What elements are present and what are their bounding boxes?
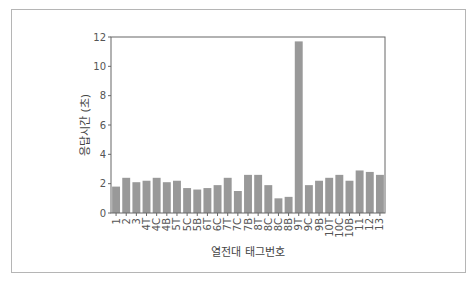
x-tick-label: 13 — [374, 218, 385, 231]
bar — [325, 178, 333, 213]
bar — [305, 185, 313, 213]
bar — [132, 182, 140, 213]
bar — [173, 181, 181, 213]
bar — [285, 197, 293, 213]
bar — [203, 188, 211, 213]
y-tick-label: 10 — [93, 61, 106, 72]
bar — [264, 185, 272, 213]
bar — [335, 175, 343, 213]
x-axis-label: 열전대 태그번호 — [211, 246, 285, 259]
bar — [153, 178, 161, 213]
bar — [315, 181, 323, 213]
y-axis: 024681012 — [93, 32, 111, 219]
bar — [214, 185, 222, 213]
bar — [356, 170, 364, 213]
bars — [112, 41, 384, 213]
bar — [244, 175, 252, 213]
bar — [112, 187, 120, 213]
y-tick-label: 12 — [93, 32, 106, 43]
bar — [274, 198, 282, 213]
bar — [143, 181, 151, 213]
bar — [183, 188, 191, 213]
y-tick-label: 6 — [100, 120, 106, 131]
y-axis-label: 응답시간 (초) — [79, 94, 92, 156]
bar — [295, 41, 303, 213]
bar — [224, 178, 232, 213]
y-tick-label: 2 — [100, 178, 106, 189]
bar-chart: 024681012 1234T4C4B5T5C5B6T6C7T7C7B8T8C8… — [0, 0, 476, 287]
y-tick-label: 4 — [100, 149, 106, 160]
x-axis: 1234T4C4B5T5C5B6T6C7T7C7B8T8C8C8B9T9C9B1… — [111, 213, 386, 238]
bar — [122, 178, 130, 213]
bar — [193, 190, 201, 213]
bar — [234, 191, 242, 213]
bar — [163, 182, 171, 213]
bar — [376, 175, 384, 213]
y-tick-label: 0 — [100, 208, 106, 219]
bar — [254, 175, 262, 213]
y-tick-label: 8 — [100, 90, 106, 101]
bar — [366, 172, 374, 213]
bar — [346, 181, 354, 213]
